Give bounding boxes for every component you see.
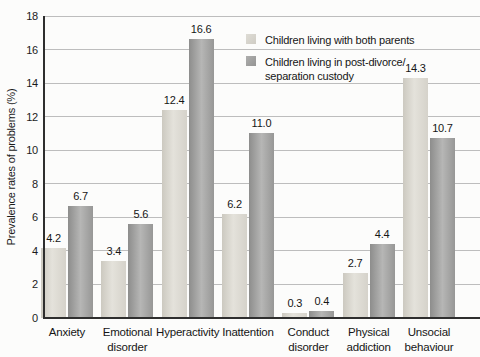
legend-item-both-parents: Children living with both parents — [246, 33, 414, 48]
value-label-post-divorce-5: 4.4 — [360, 228, 405, 241]
value-label-post-divorce-6: 10.7 — [420, 122, 465, 135]
bar-post-divorce-5 — [370, 244, 395, 318]
bar-post-divorce-6 — [430, 138, 455, 318]
x-axis-line — [43, 317, 480, 319]
bar-both-parents-5 — [343, 273, 368, 318]
legend-label-post-divorce: Children living in post-divorce/ separat… — [265, 55, 405, 84]
value-label-both-parents-2: 12.4 — [152, 94, 197, 107]
category-label-0: Anxiety — [33, 325, 101, 340]
category-label-3: Inattention — [214, 325, 282, 340]
category-label-6: Unsocialbehaviour — [395, 325, 463, 355]
value-label-post-divorce-2: 16.6 — [179, 23, 224, 36]
bar-post-divorce-3 — [249, 133, 274, 318]
value-label-both-parents-5: 2.7 — [333, 257, 378, 270]
y-tick-label-18: 18 — [14, 9, 38, 23]
legend-swatch-both-parents-icon — [246, 34, 256, 44]
value-label-both-parents-3: 6.2 — [212, 198, 257, 211]
value-label-post-divorce-0: 6.7 — [58, 190, 103, 203]
legend-item-post-divorce: Children living in post-divorce/ separat… — [246, 55, 414, 84]
y-tick-label-0: 0 — [14, 311, 38, 325]
category-label-1: Emotionaldisorder — [93, 325, 161, 355]
legend-swatch-post-divorce-icon — [246, 56, 256, 66]
bar-chart: Prevalence rates of problems (%) 0246810… — [0, 0, 480, 357]
y-tick-label-16: 16 — [14, 43, 38, 57]
bar-post-divorce-1 — [128, 224, 153, 318]
bar-both-parents-2 — [162, 110, 187, 318]
category-label-2: Hyperactivity — [154, 325, 222, 340]
y-tick-label-6: 6 — [14, 210, 38, 224]
y-tick-label-2: 2 — [14, 277, 38, 291]
y-tick-label-8: 8 — [14, 177, 38, 191]
y-tick-label-10: 10 — [14, 143, 38, 157]
y-tick-label-14: 14 — [14, 76, 38, 90]
legend-label-line-1: Children living in post-divorce/ — [265, 55, 405, 70]
bar-both-parents-6 — [403, 78, 428, 318]
value-label-both-parents-0: 4.2 — [31, 232, 76, 245]
value-label-both-parents-1: 3.4 — [91, 245, 136, 258]
bar-post-divorce-0 — [68, 206, 93, 318]
legend-label-both-parents: Children living with both parents — [265, 33, 414, 48]
legend-label-line-2: separation custody — [265, 69, 405, 84]
bar-both-parents-3 — [222, 214, 247, 318]
gridline-18 — [45, 16, 480, 17]
category-label-5: Physicaladdiction — [335, 325, 403, 355]
category-label-4: Conductdisorder — [274, 325, 342, 355]
bar-both-parents-1 — [101, 261, 126, 318]
legend: Children living with both parents Childr… — [246, 33, 414, 91]
y-axis-line — [43, 16, 45, 319]
bar-post-divorce-2 — [189, 39, 214, 318]
y-tick-label-4: 4 — [14, 244, 38, 258]
value-label-post-divorce-3: 11.0 — [239, 117, 284, 130]
y-tick-label-12: 12 — [14, 110, 38, 124]
value-label-post-divorce-4: 0.4 — [299, 295, 344, 308]
value-label-post-divorce-1: 5.6 — [118, 208, 163, 221]
